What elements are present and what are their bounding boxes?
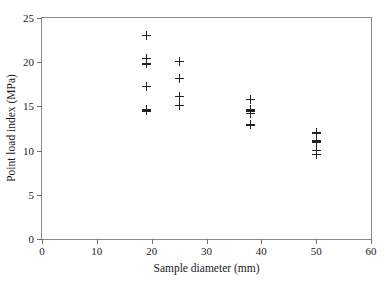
data-point-marker: [312, 146, 321, 155]
data-point-marker: [142, 106, 151, 115]
y-axis-tick: [37, 18, 42, 19]
data-point-marker: [142, 54, 151, 63]
data-point-marker: [312, 138, 321, 147]
x-axis-tick-label: 60: [366, 245, 377, 257]
data-point-marker: [246, 95, 255, 104]
y-axis-tick: [37, 195, 42, 196]
data-point-marker: [246, 107, 255, 116]
x-axis-tick: [316, 239, 317, 244]
data-point-marker: [175, 101, 184, 110]
x-axis-tick: [97, 239, 98, 244]
y-axis-tick: [37, 151, 42, 152]
data-point-marker: [312, 128, 321, 137]
y-axis-label: Point load index (MPa): [5, 74, 17, 182]
y-axis-tick: [37, 62, 42, 63]
data-point-marker: [312, 150, 321, 159]
x-axis-tick: [152, 239, 153, 244]
x-axis-tick: [371, 239, 372, 244]
data-point-marker: [246, 105, 255, 114]
y-axis-tick-label: 10: [23, 145, 34, 157]
plot-area: 05101520250102030405060: [41, 17, 372, 240]
x-axis-tick-label: 10: [91, 245, 102, 257]
y-axis-tick-label: 5: [29, 189, 35, 201]
data-point-marker: [175, 57, 184, 66]
x-axis-tick-label: 40: [256, 245, 267, 257]
x-axis-tick: [261, 239, 262, 244]
data-point-marker: [142, 31, 151, 40]
x-axis-tick: [207, 239, 208, 244]
y-axis-tick-label: 0: [29, 233, 35, 245]
data-point-marker: [142, 59, 151, 68]
data-point-marker: [312, 136, 321, 145]
x-axis-tick-label: 50: [311, 245, 322, 257]
x-axis-label: Sample diameter (mm): [41, 262, 372, 274]
data-points-layer: [42, 18, 371, 239]
data-point-marker: [246, 109, 255, 118]
data-point-marker: [175, 92, 184, 101]
y-axis-tick-label: 20: [23, 56, 34, 68]
data-point-marker: [175, 74, 184, 83]
y-axis-tick: [37, 106, 42, 107]
data-point-marker: [246, 120, 255, 129]
y-axis-tick-label: 15: [23, 100, 34, 112]
data-point-marker: [142, 82, 151, 91]
data-point-marker: [142, 105, 151, 114]
y-axis-tick-label: 25: [23, 12, 34, 24]
x-axis-tick-label: 0: [39, 245, 45, 257]
x-axis-tick: [42, 239, 43, 244]
x-axis-tick-label: 30: [201, 245, 212, 257]
x-axis-tick-label: 20: [146, 245, 157, 257]
scatter-chart-figure: 05101520250102030405060 Sample diameter …: [0, 0, 386, 281]
